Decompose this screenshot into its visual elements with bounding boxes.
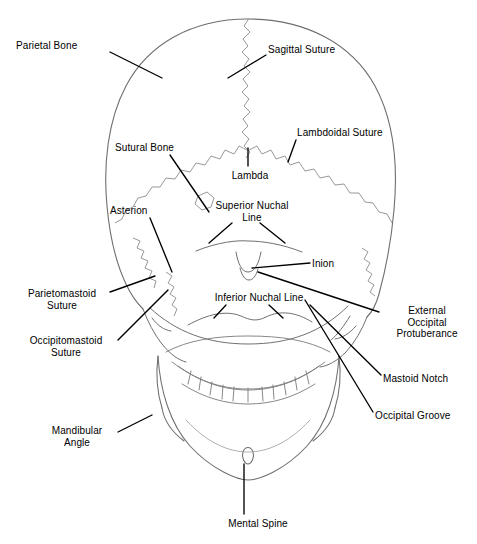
label-lambdoidal-suture: Lambdoidal Suture	[297, 127, 407, 139]
label-mandibular-angle: MandibularAngle	[38, 425, 116, 448]
label-line: Occipitomastoid	[16, 335, 116, 347]
label-line: Occipital Groove	[375, 410, 473, 422]
label-sagittal-suture: Sagittal Suture	[268, 44, 364, 56]
label-parietal-bone: Parietal Bone	[16, 40, 106, 52]
label-parietomastoid-suture: ParietomastoidSuture	[16, 288, 108, 311]
label-occipital-groove: Occipital Groove	[375, 410, 473, 422]
label-line: External	[381, 305, 473, 317]
label-sutural-bone: Sutural Bone	[115, 142, 201, 154]
label-line: Parietomastoid	[16, 288, 108, 300]
label-line: Asterion	[110, 205, 166, 217]
label-inion: Inion	[312, 258, 348, 270]
skull-anatomy-diagram	[0, 0, 477, 544]
label-line: Superior Nuchal	[208, 200, 296, 212]
label-line: Lambda	[226, 170, 274, 182]
label-line: Suture	[16, 300, 108, 312]
label-external-occipital-protuberance: ExternalOccipitalProtuberance	[381, 305, 473, 340]
label-line: Line	[208, 212, 296, 224]
label-line: Occipital	[381, 317, 473, 329]
label-superior-nuchal-line: Superior NuchalLine	[208, 200, 296, 223]
label-line: Suture	[16, 347, 116, 359]
label-inferior-nuchal-line: Inferior Nuchal Line	[201, 292, 317, 304]
label-line: Sagittal Suture	[268, 44, 364, 56]
label-mastoid-notch: Mastoid Notch	[383, 373, 473, 385]
label-line: Angle	[38, 437, 116, 449]
label-line: Parietal Bone	[16, 40, 106, 52]
label-lambda: Lambda	[226, 170, 274, 182]
label-line: Mental Spine	[218, 518, 298, 530]
label-asterion: Asterion	[110, 205, 166, 217]
label-mental-spine: Mental Spine	[218, 518, 298, 530]
label-occipitomastoid-suture: OccipitomastoidSuture	[16, 335, 116, 358]
label-line: Mandibular	[38, 425, 116, 437]
label-line: Sutural Bone	[115, 142, 201, 154]
label-line: Mastoid Notch	[383, 373, 473, 385]
label-line: Inion	[312, 258, 348, 270]
label-line: Lambdoidal Suture	[297, 127, 407, 139]
label-line: Protuberance	[381, 328, 473, 340]
diagram-background	[0, 0, 477, 544]
label-line: Inferior Nuchal Line	[201, 292, 317, 304]
